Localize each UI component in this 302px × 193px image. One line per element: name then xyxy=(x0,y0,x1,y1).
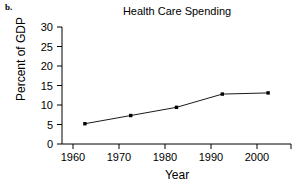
x-tick-labels: 1960 1970 1980 1990 2000 xyxy=(61,151,269,163)
data-point-marker xyxy=(129,114,132,117)
x-tick-marks xyxy=(73,144,291,149)
y-tick-label: 10 xyxy=(41,99,53,111)
y-tick-label: 0 xyxy=(47,138,53,150)
x-tick-label: 1960 xyxy=(61,151,85,163)
data-point-marker xyxy=(83,122,86,125)
data-point-marker xyxy=(175,106,178,109)
y-tick-labels: 30 25 20 15 10 5 0 xyxy=(41,21,53,150)
x-tick-label: 2000 xyxy=(245,151,269,163)
y-tick-label: 20 xyxy=(41,60,53,72)
x-tick-label: 1990 xyxy=(199,151,223,163)
data-series-markers xyxy=(83,91,270,125)
y-tick-marks xyxy=(57,27,62,144)
x-tick-label: 1970 xyxy=(107,151,131,163)
y-tick-label: 5 xyxy=(47,119,53,131)
x-tick-label: 1980 xyxy=(153,151,177,163)
data-point-marker xyxy=(266,91,269,94)
y-tick-label: 15 xyxy=(41,80,53,92)
figure-panel: b. Health Care Spending Percent of GDP Y… xyxy=(0,0,302,193)
data-point-marker xyxy=(221,92,224,95)
plot-area: 30 25 20 15 10 5 0 1960 1970 1980 1990 2… xyxy=(0,0,302,193)
y-tick-label: 25 xyxy=(41,41,53,53)
y-tick-label: 30 xyxy=(41,21,53,33)
